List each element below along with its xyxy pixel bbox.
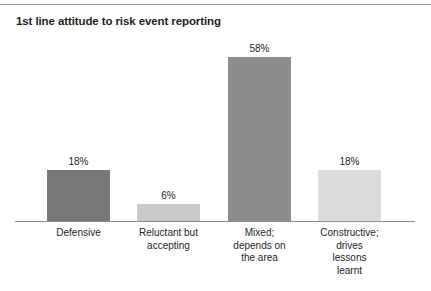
category-label-constructive-drives-lessons-learnt: Constructive;driveslessonslearnt — [290, 227, 410, 277]
bar-mixed-depends-on-the-area[interactable] — [228, 57, 291, 221]
category-label-line: Constructive; — [290, 227, 410, 240]
category-axis-line — [15, 221, 415, 222]
bar-defensive[interactable] — [47, 170, 110, 221]
bar-value-label: 58% — [200, 43, 320, 54]
bar-value-label: 6% — [109, 190, 229, 201]
category-label-line: drives — [290, 240, 410, 253]
category-label-line: learnt — [290, 265, 410, 278]
bar-chart-plot-area: 18% 6% 58% 18% Defensive Reluctant butac… — [0, 0, 431, 291]
bar-value-label: 18% — [290, 156, 410, 167]
bar-constructive-drives-lessons-learnt[interactable] — [318, 170, 381, 221]
bar-value-label: 18% — [19, 156, 139, 167]
bar-reluctant-but-accepting[interactable] — [137, 204, 200, 221]
category-label-line: lessons — [290, 252, 410, 265]
chart-figure: 1st line attitude to risk event reportin… — [0, 0, 431, 291]
